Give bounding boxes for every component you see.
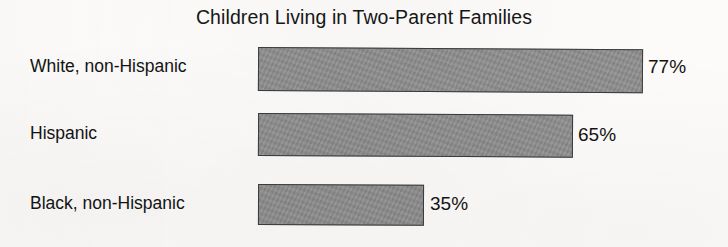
bar-hispanic	[258, 113, 573, 158]
bar-white-non-hispanic	[258, 47, 643, 93]
category-label-hispanic: Hispanic	[30, 123, 248, 144]
category-label-black-non-hispanic: Black, non-Hispanic	[30, 193, 248, 214]
chart-title: Children Living in Two-Parent Families	[0, 6, 728, 29]
chart-row-black-non-hispanic: Black, non-Hispanic 35%	[0, 180, 728, 236]
chart-row-white-non-hispanic: White, non-Hispanic 77%	[0, 44, 728, 100]
bar-chart: Children Living in Two-Parent Families W…	[0, 0, 728, 247]
value-label-hispanic: 65%	[578, 124, 616, 146]
value-label-black-non-hispanic: 35%	[430, 193, 468, 215]
bar-black-non-hispanic	[258, 184, 424, 226]
value-label-white-non-hispanic: 77%	[648, 56, 686, 78]
chart-row-hispanic: Hispanic 65%	[0, 110, 728, 166]
category-label-white-non-hispanic: White, non-Hispanic	[30, 56, 248, 77]
